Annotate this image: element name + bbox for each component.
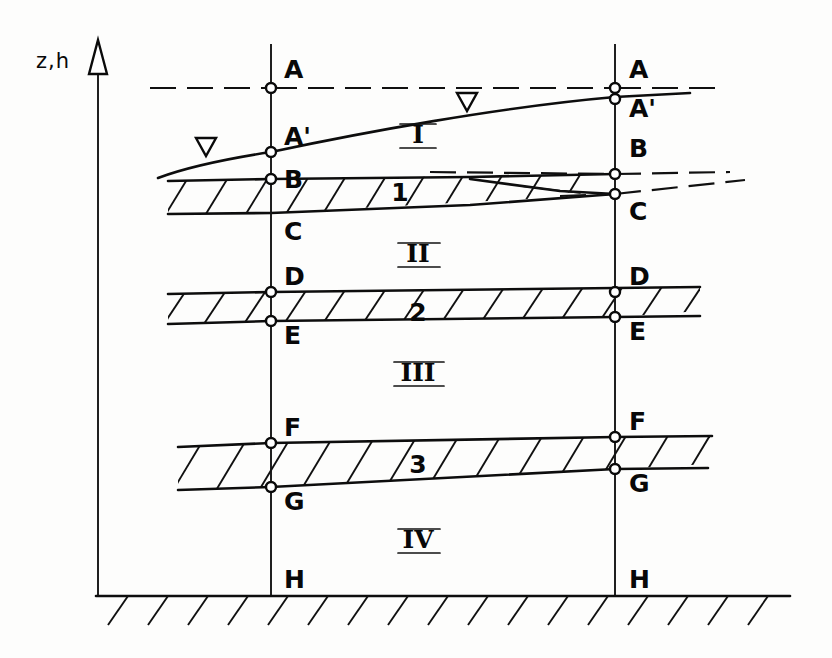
ground-base-group [96, 596, 790, 625]
ground-hatching [108, 596, 768, 625]
vertical-axis: z,h [36, 40, 107, 596]
aquitard-3-hatching [160, 392, 736, 512]
label-right-E: E [629, 317, 646, 346]
aquitard-labels: 1 2 3 [391, 178, 426, 479]
label-right-A: A [629, 55, 649, 84]
figure-root: z,h [0, 0, 832, 658]
label-left-C: C [284, 217, 302, 246]
node-right-Aprime[interactable] [610, 94, 620, 104]
axis-arrowhead-open-triangle-icon [89, 40, 107, 74]
dashed-level-b-left-of-borehole [430, 172, 615, 174]
dashed-level-b-right [615, 172, 730, 174]
node-left-E[interactable] [266, 316, 276, 326]
node-right-C[interactable] [610, 189, 620, 199]
label-left-A: A [284, 55, 304, 84]
node-right-E[interactable] [610, 312, 620, 322]
node-right-B[interactable] [610, 169, 620, 179]
node-right-A[interactable] [610, 83, 620, 93]
label-left-Aprime: A' [284, 122, 311, 151]
node-left-G[interactable] [266, 482, 276, 492]
label-left-E: E [284, 321, 301, 350]
node-left-F[interactable] [266, 438, 276, 448]
label-right-B: B [629, 134, 648, 163]
water-table-curve [158, 97, 615, 178]
label-right-F: F [629, 407, 646, 436]
water-table-marker-left [196, 138, 216, 156]
node-right-D[interactable] [610, 287, 620, 297]
node-left-B[interactable] [266, 174, 276, 184]
dashed-level-c-right [615, 180, 745, 194]
node-right-G[interactable] [610, 464, 620, 474]
label-right-D: D [629, 262, 650, 291]
left-point-labels: A A' B C D E F G H [284, 55, 311, 594]
label-left-D: D [284, 262, 305, 291]
label-left-F: F [284, 413, 301, 442]
label-right-G: G [629, 469, 650, 498]
label-right-Aprime: A' [629, 94, 656, 123]
aquitard-label-3: 3 [409, 450, 426, 479]
node-left-Aprime[interactable] [266, 147, 276, 157]
label-left-G: G [284, 487, 305, 516]
label-left-B: B [284, 165, 303, 194]
aquitard-3-top-boundary [178, 436, 712, 447]
aquitard-label-2: 2 [409, 298, 426, 327]
label-right-C: C [629, 197, 647, 226]
aquitard-label-1: 1 [391, 178, 408, 207]
water-table-surface [158, 93, 690, 178]
aquitard-3-group [160, 392, 736, 512]
node-left-D[interactable] [266, 287, 276, 297]
label-left-H: H [284, 565, 305, 594]
node-left-A[interactable] [266, 83, 276, 93]
label-right-H: H [629, 565, 650, 594]
water-table-marker-right [457, 93, 477, 111]
axis-label-zh: z,h [36, 49, 70, 73]
cross-section-diagram: z,h [0, 0, 832, 658]
node-right-F[interactable] [610, 432, 620, 442]
right-point-labels: A A' B C D E F G H [629, 55, 656, 594]
